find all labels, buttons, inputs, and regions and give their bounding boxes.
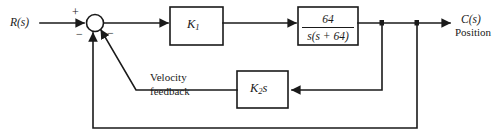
fraction-bar xyxy=(302,27,354,28)
diagram-canvas xyxy=(0,0,503,136)
sum-sign-plus: + xyxy=(72,6,79,19)
gain-block-label: K1 xyxy=(187,18,200,32)
velocity-feedback-label-line2: feedback xyxy=(150,86,190,98)
output-label: C(s) xyxy=(461,13,481,25)
plant-numerator: 64 xyxy=(300,12,356,26)
velocity-feedback-label-line1: Velocity xyxy=(150,72,187,84)
output-sublabel: Position xyxy=(455,27,491,39)
summing-junction xyxy=(87,15,104,32)
input-label: R(s) xyxy=(10,16,29,28)
sum-sign-minus-position: − xyxy=(76,28,83,41)
velocity-takeoff-node xyxy=(380,20,385,26)
plant-block-transfer-function: 64 s(s + 64) xyxy=(300,12,356,44)
rate-block-label: K2s xyxy=(250,82,267,96)
gain-block-subscript: 1 xyxy=(195,22,199,32)
plant-denominator: s(s + 64) xyxy=(300,29,356,43)
position-takeoff-node xyxy=(415,20,420,26)
rate-block-suffix: s xyxy=(263,81,268,95)
block-diagram: R(s) + − − K1 64 s(s + 64) K2s Velocity … xyxy=(0,0,503,136)
sum-sign-minus-velocity: − xyxy=(107,27,114,40)
